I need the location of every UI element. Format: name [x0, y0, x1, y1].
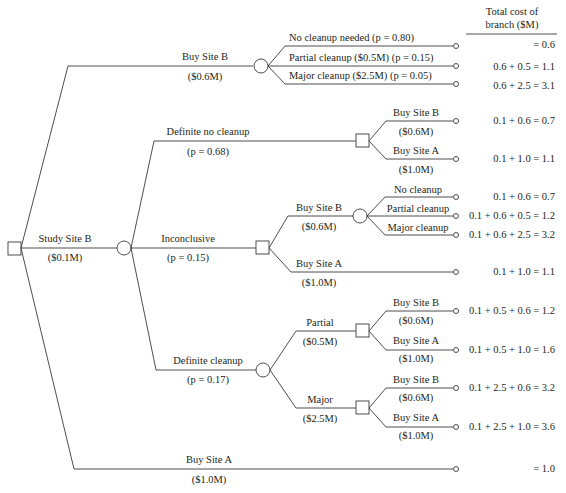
sub-branch-cost: ($2.5M) [303, 413, 338, 425]
total-cost: 0.1 + 2.5 + 0.6 = 3.2 [469, 382, 555, 393]
decision-node-icon [256, 241, 269, 254]
branch-label: Study Site B [38, 233, 91, 244]
option-label: Buy Site A [393, 412, 440, 423]
option-cost: ($1.0M) [399, 353, 434, 365]
outcome-label: Partial cleanup [387, 203, 450, 214]
option-cost: ($1.0M) [302, 277, 337, 289]
terminal-node-icon [454, 82, 459, 87]
total-cost: 0.1 + 2.5 + 1.0 = 3.6 [469, 421, 555, 432]
option-cost: ($0.6M) [302, 221, 337, 233]
option-label: Buy Site B [393, 374, 439, 385]
chance-node-icon [353, 209, 367, 223]
total-cost: = 1.0 [533, 463, 555, 474]
header-line-1: Total cost of [486, 6, 539, 17]
header-line-2: branch ($M) [486, 19, 539, 31]
option-cost: ($0.6M) [399, 315, 434, 327]
branch-study-site-b: Study Site B ($0.1M) [21, 233, 131, 264]
branch-label: Inconclusive [161, 233, 215, 244]
decision-node-icon [356, 324, 369, 337]
branch-prob: (p = 0.17) [187, 374, 229, 386]
sub-branch-cost: ($0.5M) [303, 336, 338, 348]
sub-branch-label: Major [307, 394, 333, 405]
terminal-node-icon [454, 44, 459, 49]
terminal-node-icon [454, 309, 459, 314]
total-cost: 0.1 + 1.0 = 1.1 [493, 266, 555, 277]
option-cost: ($0.6M) [399, 392, 434, 404]
total-cost: 0.6 + 2.5 = 3.1 [493, 80, 555, 91]
outcome-label: Major cleanup ($2.5M) (p = 0.05) [289, 70, 432, 82]
branch-label: Definite no cleanup [167, 126, 250, 137]
decision-node-icon [356, 401, 369, 414]
chance-node-icon [117, 241, 131, 255]
total-cost: 0.6 + 0.5 = 1.1 [493, 61, 555, 72]
total-cost: 0.1 + 1.0 = 1.1 [493, 153, 555, 164]
option-cost: ($1.0M) [399, 430, 434, 442]
chance-node-icon [254, 59, 268, 73]
outcome-label: No cleanup [394, 184, 442, 195]
terminal-node-icon [454, 233, 459, 238]
terminal-node-icon [454, 467, 459, 472]
option-label: Buy Site A [393, 145, 440, 156]
decision-node-icon [356, 134, 369, 147]
total-cost: = 0.6 [533, 39, 555, 50]
option-label: Buy Site A [296, 258, 343, 269]
branch-prob: (p = 0.15) [167, 252, 209, 264]
outcome-label: No cleanup needed (p = 0.80) [289, 32, 414, 44]
terminal-node-icon [454, 425, 459, 430]
chance-node-icon [256, 363, 270, 377]
terminal-node-icon [454, 157, 459, 162]
outcome-label: Partial cleanup ($0.5M) (p = 0.15) [289, 52, 434, 64]
total-cost: 0.1 + 0.5 + 1.0 = 1.6 [469, 344, 555, 355]
total-cost: 0.1 + 0.6 = 0.7 [493, 115, 555, 126]
sub-branch-label: Partial [306, 317, 333, 328]
terminal-node-icon [454, 386, 459, 391]
branch-cost: ($1.0M) [192, 474, 227, 486]
branch-cost: ($0.6M) [188, 71, 223, 83]
branch-inconclusive: Inconclusive (p = 0.15) Buy Site B ($0.6… [131, 184, 555, 289]
branch-cost: ($0.1M) [48, 252, 83, 264]
decision-tree-diagram: Total cost of branch ($M) Buy Site B ($0… [0, 0, 566, 493]
total-cost: 0.1 + 0.6 + 2.5 = 3.2 [469, 229, 555, 240]
total-cost: 0.1 + 0.6 + 0.5 = 1.2 [469, 210, 555, 221]
option-label: Buy Site B [296, 202, 342, 213]
branch-label: Buy Site A [186, 454, 233, 465]
terminal-node-icon [454, 195, 459, 200]
total-cost: 0.1 + 0.5 + 0.6 = 1.2 [469, 305, 555, 316]
branch-label: Definite cleanup [173, 355, 243, 366]
option-cost: ($0.6M) [399, 126, 434, 138]
root-decision-node-icon [8, 242, 21, 255]
outcome-label: Major cleanup [388, 222, 449, 233]
terminal-node-icon [454, 64, 459, 69]
branch-prob: (p = 0.68) [187, 146, 229, 158]
terminal-node-icon [454, 119, 459, 124]
branch-buy-site-a: Buy Site A ($1.0M) = 1.0 [21, 248, 555, 486]
option-cost: ($1.0M) [399, 164, 434, 176]
total-cost-header: Total cost of branch ($M) [466, 6, 557, 34]
option-label: Buy Site B [393, 107, 439, 118]
total-cost: 0.1 + 0.6 = 0.7 [493, 191, 555, 202]
terminal-node-icon [454, 214, 459, 219]
terminal-node-icon [454, 348, 459, 353]
option-label: Buy Site A [393, 335, 440, 346]
branch-definite-cleanup: Definite cleanup (p = 0.17) Partial ($0.… [131, 248, 555, 442]
branch-definite-no-cleanup: Definite no cleanup (p = 0.68) Buy Site … [131, 107, 555, 248]
terminal-node-icon [454, 270, 459, 275]
branch-label: Buy Site B [182, 51, 228, 62]
option-label: Buy Site B [393, 297, 439, 308]
